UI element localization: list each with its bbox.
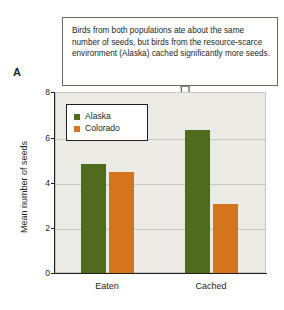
- legend: Alaska Colorado: [66, 104, 148, 141]
- y-tick-mark-8: [51, 92, 55, 93]
- legend-label-alaska: Alaska: [85, 111, 111, 122]
- legend-swatch-icon-colorado: [74, 126, 80, 132]
- x-tick-label-cached: Cached: [195, 281, 226, 291]
- y-tick-mark-6: [51, 138, 55, 139]
- bar-colorado-eaten: [109, 172, 134, 273]
- bar-alaska-eaten: [81, 164, 106, 273]
- y-tick-mark-4: [51, 183, 55, 184]
- legend-item-colorado: Colorado: [74, 123, 141, 134]
- y-tick-label-8: 8: [20, 87, 50, 97]
- legend-label-colorado: Colorado: [85, 123, 120, 134]
- y-tick-mark-2: [51, 228, 55, 229]
- legend-item-alaska: Alaska: [74, 111, 141, 122]
- figure-panel-a: A Birds from both populations ate about …: [0, 0, 284, 310]
- y-tick-mark-0: [51, 273, 55, 274]
- x-axis-line: [54, 273, 267, 274]
- y-tick-label-0: 0: [20, 268, 50, 278]
- x-tick-label-eaten: Eaten: [95, 281, 119, 291]
- bar-colorado-cached: [213, 204, 238, 273]
- bar-alaska-cached: [185, 130, 210, 273]
- callout-box: Birds from both populations ate about th…: [62, 17, 278, 86]
- callout-text: Birds from both populations ate about th…: [72, 25, 270, 60]
- y-axis-title: Mean number of seeds: [19, 117, 29, 257]
- legend-swatch-icon-alaska: [74, 114, 80, 120]
